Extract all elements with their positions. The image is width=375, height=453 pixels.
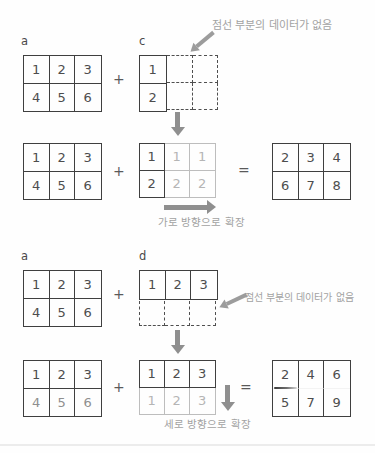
down-arrow-icon: [171, 330, 185, 354]
matrix-cell: 2: [50, 144, 76, 172]
matrix-a-label: a: [21, 251, 28, 263]
arrow-head: [171, 127, 185, 136]
annotation-arrow-icon: [187, 29, 216, 56]
matrix-cell: 7: [299, 389, 325, 417]
matrix-cell: 6: [324, 361, 350, 389]
missing-data-note-top: 점선 부분의 데이터가 없음: [212, 19, 333, 32]
missing-cell: [191, 301, 217, 326]
matrix-cell: 3: [190, 388, 216, 416]
expand-horizontal-label: 가로 방향으로 확장: [158, 216, 245, 229]
matrix-cell: 1: [24, 271, 50, 299]
matrix-sum-horizontal: 2 3 4 6 7 8: [272, 143, 351, 200]
arrow-stem: [176, 112, 181, 127]
matrix-cell: 5: [50, 84, 76, 112]
matrix-cell: 5: [50, 299, 76, 327]
matrix-cell: 2: [190, 171, 216, 199]
missing-cell: [167, 55, 193, 83]
matrix-cell: 4: [299, 361, 325, 389]
missing-data-note-bottom: 점선 부분의 데이터가 없음: [245, 292, 354, 304]
arrow-stem: [196, 31, 215, 48]
matrix-cell: 2: [50, 56, 76, 84]
arrow-stem: [176, 330, 181, 345]
matrix-cell: 3: [75, 361, 101, 389]
matrix-cell: 2: [165, 171, 191, 199]
annotation-arrow-icon: [217, 290, 248, 312]
page-divider-line: [0, 444, 375, 446]
missing-cell: [193, 83, 219, 111]
matrix-cell: 2: [273, 361, 299, 389]
arrow-head: [171, 345, 185, 354]
matrix-d-missing-region: [139, 301, 216, 326]
matrix-cell: 2: [166, 271, 192, 299]
matrix-a-bottom-2: 1 2 3 4 5 6: [23, 360, 102, 417]
matrix-cell: 5: [50, 172, 76, 200]
matrix-a-label: a: [21, 36, 28, 48]
matrix-cell: 6: [273, 172, 299, 200]
arrow-head: [207, 200, 216, 214]
matrix-cell: 2: [139, 171, 165, 199]
matrix-cell: 3: [75, 144, 101, 172]
matrix-cell: 9: [324, 389, 350, 417]
matrix-cell: 3: [191, 271, 217, 299]
matrix-d-label: d: [139, 251, 146, 263]
matrix-cell: 1: [139, 143, 165, 171]
missing-cell: [139, 301, 165, 326]
equals-operator: =: [240, 380, 252, 394]
plus-operator: +: [113, 72, 125, 86]
print-artifact-line: [274, 387, 297, 390]
matrix-cell: 4: [324, 144, 350, 172]
matrix-cell: 1: [140, 56, 166, 84]
arrow-head: [221, 402, 235, 411]
matrix-cell: 1: [24, 361, 50, 389]
matrix-cell: 4: [24, 299, 50, 327]
matrix-c-expanded: 1 1 1 2 2 2: [139, 143, 216, 198]
matrix-a-top-2: 1 2 3 4 5 6: [23, 143, 102, 200]
matrix-c-missing-region: [167, 55, 218, 110]
matrix-cell: 1: [165, 143, 191, 171]
matrix-cell: 4: [24, 172, 50, 200]
matrix-cell: 5: [50, 389, 76, 417]
right-arrow-icon: [164, 200, 216, 214]
matrix-cell: 1: [139, 388, 165, 416]
matrix-cell: 1: [140, 271, 166, 299]
matrix-cell: 2: [165, 388, 191, 416]
matrix-c-label: c: [139, 36, 145, 48]
matrix-cell: 3: [75, 271, 101, 299]
matrix-cell: 3: [299, 144, 325, 172]
plus-operator: +: [113, 287, 125, 301]
matrix-a-bottom: 1 2 3 4 5 6: [23, 270, 102, 327]
matrix-d: 1 2 3: [139, 270, 218, 300]
matrix-cell: 5: [273, 389, 299, 417]
matrix-d-expanded: 1 2 3 1 2 3: [139, 360, 216, 415]
matrix-cell: 7: [299, 172, 325, 200]
matrix-cell: 6: [75, 84, 101, 112]
matrix-cell: 3: [190, 360, 216, 388]
down-arrow-icon: [221, 385, 235, 411]
matrix-cell: 2: [50, 271, 76, 299]
matrix-cell: 6: [75, 389, 101, 417]
down-arrow-icon: [171, 112, 185, 136]
plus-operator: +: [113, 164, 125, 178]
matrix-cell: 1: [24, 144, 50, 172]
matrix-cell: 1: [190, 143, 216, 171]
matrix-cell: 8: [324, 172, 350, 200]
missing-cell: [193, 55, 219, 83]
matrix-cell: 2: [50, 361, 76, 389]
matrix-cell: 6: [75, 172, 101, 200]
matrix-cell: 4: [24, 389, 50, 417]
missing-cell: [167, 83, 193, 111]
expand-vertical-label: 세로 방향으로 확장: [164, 418, 251, 431]
plus-operator: +: [113, 380, 125, 394]
matrix-cell: 1: [24, 56, 50, 84]
matrix-a-top: 1 2 3 4 5 6: [23, 55, 102, 112]
matrix-c: 1 2: [139, 55, 167, 112]
matrix-cell: 2: [140, 84, 166, 112]
matrix-cell: 3: [75, 56, 101, 84]
equals-operator: =: [238, 163, 250, 177]
matrix-cell: 4: [24, 84, 50, 112]
matrix-cell: 1: [139, 360, 165, 388]
matrix-cell: 2: [165, 360, 191, 388]
arrow-stem: [164, 205, 207, 210]
matrix-cell: 2: [273, 144, 299, 172]
arrow-stem: [226, 385, 231, 402]
